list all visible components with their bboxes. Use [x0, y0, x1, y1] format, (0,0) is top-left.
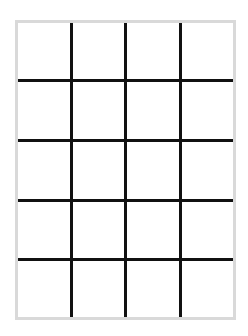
grid-vertical-line-1: [70, 23, 73, 317]
grid-horizontal-line-2: [18, 139, 233, 142]
grid-vertical-line-2: [124, 23, 127, 317]
grid-horizontal-line-4: [18, 258, 233, 261]
grid-horizontal-line-1: [18, 79, 233, 82]
grid-vertical-line-3: [179, 23, 182, 317]
grid-horizontal-line-3: [18, 199, 233, 202]
